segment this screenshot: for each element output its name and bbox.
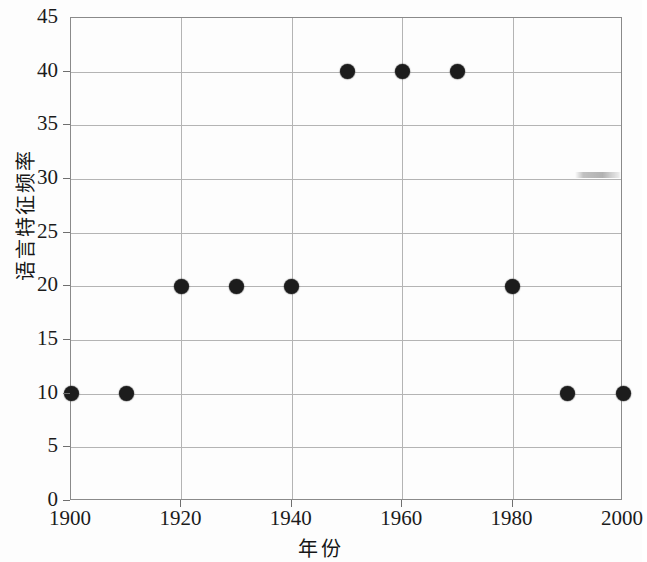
y-tick-mark-5 <box>63 446 70 447</box>
data-point <box>340 64 355 79</box>
plot-area <box>70 17 622 500</box>
gridline-x-1920 <box>181 18 182 499</box>
data-point <box>284 279 299 294</box>
gridline-y-10 <box>71 394 621 395</box>
gridline-y-30 <box>71 179 621 180</box>
y-tick-mark-25 <box>63 232 70 233</box>
x-tick-label-2000: 2000 <box>577 508 647 529</box>
x-tick-label-1900: 1900 <box>25 508 115 529</box>
data-point <box>616 386 631 401</box>
data-point <box>64 386 79 401</box>
gridline-y-35 <box>71 125 621 126</box>
gridline-y-15 <box>71 340 621 341</box>
gridline-x-1980 <box>513 18 514 499</box>
y-tick-label-10: 10 <box>0 382 58 403</box>
y-tick-mark-30 <box>63 178 70 179</box>
data-point <box>505 279 520 294</box>
x-tick-label-1980: 1980 <box>467 508 557 529</box>
gridline-x-1960 <box>402 18 403 499</box>
y-axis-title: 语言特征频率 <box>10 95 39 335</box>
x-tick-label-1940: 1940 <box>246 508 336 529</box>
gridline-x-1940 <box>292 18 293 499</box>
gridline-y-5 <box>71 447 621 448</box>
y-tick-label-40: 40 <box>0 60 58 81</box>
scan-smudge-artifact <box>575 172 621 178</box>
y-tick-label-45: 45 <box>0 6 58 27</box>
y-tick-mark-0 <box>63 500 70 501</box>
gridline-y-20 <box>71 286 621 287</box>
data-point <box>560 386 575 401</box>
x-tick-label-1960: 1960 <box>356 508 446 529</box>
gridline-y-25 <box>71 233 621 234</box>
y-tick-mark-35 <box>63 124 70 125</box>
x-axis-title: 年份 <box>0 533 642 562</box>
data-point <box>119 386 134 401</box>
y-axis-title-holder: 语言特征频率 <box>0 0 1 1</box>
y-tick-mark-40 <box>63 71 70 72</box>
y-tick-mark-20 <box>63 285 70 286</box>
data-point <box>450 64 465 79</box>
y-tick-mark-10 <box>63 393 70 394</box>
x-tick-label-1920: 1920 <box>135 508 225 529</box>
y-tick-mark-15 <box>63 339 70 340</box>
data-point <box>174 279 189 294</box>
data-point <box>229 279 244 294</box>
data-point <box>395 64 410 79</box>
y-tick-label-5: 5 <box>0 435 58 456</box>
